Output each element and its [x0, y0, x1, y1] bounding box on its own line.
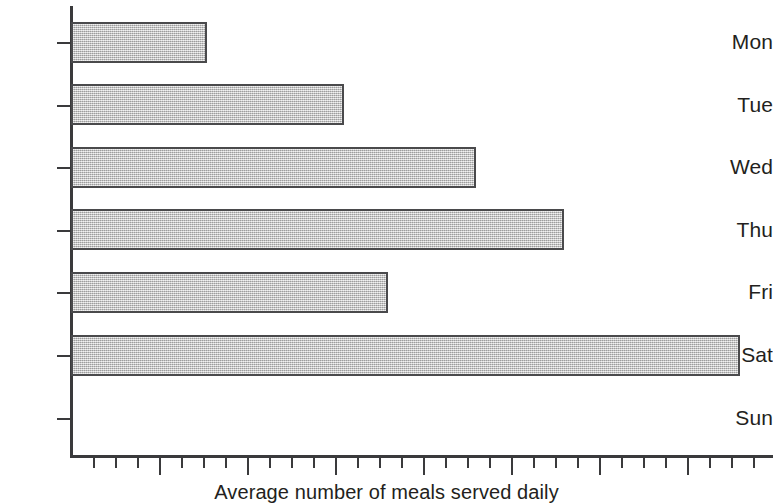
x-tick-major-20	[511, 458, 513, 475]
x-tick-minor-29	[709, 458, 711, 468]
x-tick-minor-5	[181, 458, 183, 468]
x-tick-minor-6	[203, 458, 205, 468]
x-tick-minor-3	[137, 458, 139, 468]
x-tick-minor-22	[555, 458, 557, 468]
x-tick-minor-18	[467, 458, 469, 468]
x-tick-major-4	[159, 458, 161, 475]
x-tick-minor-13	[357, 458, 359, 468]
bar-mon	[71, 22, 207, 63]
bar-thu	[71, 209, 564, 250]
y-tick-mon	[57, 42, 71, 44]
bar-wed	[71, 147, 476, 188]
y-label-tue: Tue	[719, 93, 773, 117]
x-tick-minor-11	[313, 458, 315, 468]
y-label-mon: Mon	[719, 30, 773, 54]
y-label-fri: Fri	[719, 280, 773, 304]
y-tick-sun	[57, 418, 71, 420]
x-tick-minor-21	[533, 458, 535, 468]
x-tick-minor-2	[115, 458, 117, 468]
x-tick-minor-9	[269, 458, 271, 468]
x-tick-major-8	[247, 458, 249, 475]
x-axis-line	[70, 455, 773, 458]
y-label-thu: Thu	[719, 218, 773, 242]
x-tick-minor-23	[577, 458, 579, 468]
y-tick-wed	[57, 167, 71, 169]
y-tick-sat	[57, 355, 71, 357]
y-tick-thu	[57, 230, 71, 232]
y-tick-fri	[57, 292, 71, 294]
y-label-sat: Sat	[719, 343, 773, 367]
bar-sat	[71, 335, 740, 376]
x-tick-minor-31	[753, 458, 755, 468]
bar-fri	[71, 272, 388, 313]
x-tick-minor-15	[401, 458, 403, 468]
x-tick-minor-7	[225, 458, 227, 468]
x-tick-minor-30	[731, 458, 733, 468]
x-tick-minor-26	[643, 458, 645, 468]
x-tick-minor-1	[93, 458, 95, 468]
x-tick-major-16	[423, 458, 425, 475]
y-tick-tue	[57, 105, 71, 107]
x-axis-title: Average number of meals served daily	[0, 481, 773, 504]
x-tick-minor-25	[621, 458, 623, 468]
x-tick-major-12	[335, 458, 337, 475]
x-tick-major-28	[687, 458, 689, 475]
y-label-wed: Wed	[719, 155, 773, 179]
y-label-sun: Sun	[719, 406, 773, 430]
x-tick-minor-10	[291, 458, 293, 468]
x-tick-major-24	[599, 458, 601, 475]
x-tick-minor-14	[379, 458, 381, 468]
x-tick-minor-27	[665, 458, 667, 468]
x-tick-minor-19	[489, 458, 491, 468]
x-tick-minor-17	[445, 458, 447, 468]
bar-chart: MonTueWedThuFriSatSun Average number of …	[0, 0, 773, 504]
bar-tue	[71, 84, 344, 125]
